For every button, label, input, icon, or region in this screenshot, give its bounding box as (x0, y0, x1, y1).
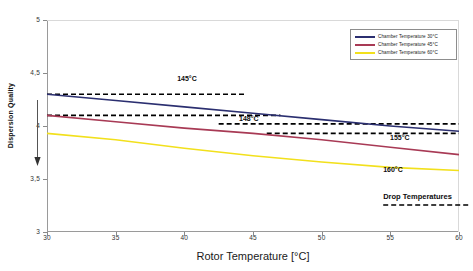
legend-item: Chamber Temperature 30°C (353, 33, 454, 40)
annotation-label: Drop Temperatures (383, 192, 452, 201)
chart-legend: Chamber Temperature 30°C Chamber Tempera… (350, 29, 457, 60)
legend-swatch-1 (355, 44, 375, 46)
legend-item: Chamber Temperature 60°C (353, 49, 454, 56)
annotation-label: 148°C (239, 115, 259, 122)
annotation-label: 160°C (383, 166, 403, 173)
legend-swatch-2 (355, 52, 375, 54)
annotation-label: 155°C (390, 134, 410, 141)
legend-swatch-0 (355, 36, 375, 38)
legend-label-1: Chamber Temperature 45°C (378, 42, 438, 47)
series-line (47, 94, 459, 131)
legend-item: Chamber Temperature 45°C (353, 41, 454, 48)
legend-label-0: Chamber Temperature 30°C (378, 34, 438, 39)
legend-label-2: Chamber Temperature 60°C (378, 50, 438, 55)
chart-container: 54,543,53 30354045505560 Dispersion Qual… (0, 0, 473, 271)
annotation-label: 145°C (177, 75, 197, 82)
